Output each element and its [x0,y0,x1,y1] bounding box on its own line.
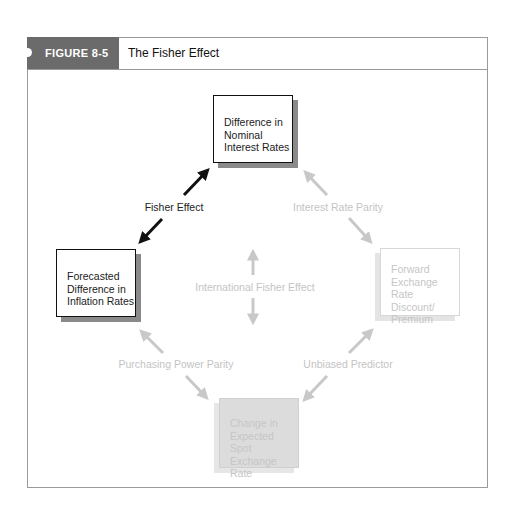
label-fisher-effect: Fisher Effect [145,201,204,213]
node-expected-spot-rate: Change in Expected Spot Exchange Rate [219,398,299,468]
ppp-arrow-down [186,376,205,396]
node-inflation-rates: Forecasted Difference in Inflation Rates [56,249,136,317]
unbiased-predictor-arrow-down [306,376,327,398]
label-unbiased-predictor: Unbiased Predictor [303,358,392,370]
label-purchasing-power-parity: Purchasing Power Parity [119,358,234,370]
node-text-line: Expected Spot [230,430,298,455]
node-nominal-interest-rates: Difference in Nominal Interest Rates [213,95,293,163]
node-text-line: Difference in [67,283,135,296]
node-text-line: Premium [391,313,459,326]
node-text-line: Discount/ [391,301,459,314]
node-text-line: Exchange Rate [230,455,298,480]
node-text-line: Difference in [224,116,292,129]
node-text-line: Forecasted [67,270,135,283]
interest-rate-parity-arrow-down [349,218,369,240]
fisher-effect-arrow-down [142,219,162,240]
node-text-line: Interest Rates [224,141,292,154]
unbiased-predictor-arrow-up [349,332,370,353]
node-text-line: Forward [391,263,459,276]
node-text-line: Inflation Rates [67,295,135,308]
ppp-arrow-up [143,333,163,353]
label-international-fisher-effect: International Fisher Effect [195,281,314,293]
node-text-line: Nominal [224,129,292,142]
node-forward-rate-premium: Forward Exchange Rate Discount/ Premium [380,248,460,316]
fisher-effect-arrow-up [184,172,206,195]
node-text-line: Exchange Rate [391,276,459,301]
node-text-line: Change in [230,417,298,430]
label-interest-rate-parity: Interest Rate Parity [293,201,383,213]
interest-rate-parity-arrow-up [307,174,327,195]
